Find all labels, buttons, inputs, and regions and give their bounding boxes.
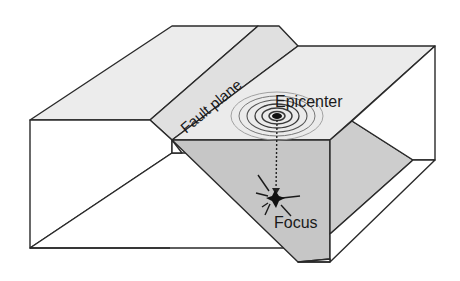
fault-diagram: Fault plane Epicenter Focus — [0, 0, 460, 281]
diagram-canvas: Fault plane Epicenter Focus — [0, 0, 460, 281]
focus-label: Focus — [274, 214, 318, 231]
epicenter-dot — [272, 113, 282, 119]
epicenter-label: Epicenter — [275, 93, 343, 110]
